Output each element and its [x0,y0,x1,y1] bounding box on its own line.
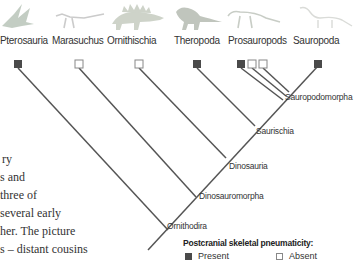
legend-item-present: Present [185,251,229,261]
body-text-line: s – distant cousins [0,240,88,258]
marker-pterosauria-present [14,60,22,68]
prosauropod-illustration-icon [228,12,280,29]
taxon-label-pterosauria: Pterosauria [0,35,48,46]
marasuchus-illustration-icon [56,14,104,28]
marker-ornithischia-absent [135,60,143,68]
legend-label-present: Present [198,251,229,261]
theropod-illustration-icon [176,8,222,31]
pterosaur-illustration-icon [2,4,34,28]
taxon-label-prosauropods: Prosauropods [228,35,287,46]
body-text-line: s and [0,168,25,186]
legend-title: Postcranial skeletal pneumaticity: [183,238,313,248]
pneumaticity-markers [14,60,322,68]
marker-prosauropod1-present [237,60,245,68]
taxon-label-marasuchus: Marasuchus [52,35,103,46]
ornithischia-illustration-icon [112,4,164,30]
body-text-line: her. The picture [0,222,75,240]
taxon-label-theropoda: Theropoda [174,35,220,46]
sauropod-illustration-icon [300,8,352,29]
filled-square-icon [185,253,192,260]
marker-marasuchus-absent [75,60,83,68]
taxon-label-sauropoda: Sauropoda [293,35,339,46]
marker-sauropoda-present [314,60,322,68]
body-text-line: ry [2,150,12,168]
marker-prosauropod2-absent [248,60,256,68]
taxon-label-ornithischia: Ornithischia [107,35,156,46]
body-text-line: three of [0,186,37,204]
empty-square-icon [276,253,283,260]
marker-theropoda-present [193,60,201,68]
node-label-dinosauromorpha: Dinosauromorpha [199,191,264,201]
legend-item-absent: Absent [276,251,317,261]
legend-label-absent: Absent [289,251,317,261]
node-label-saurischia: Saurischia [256,126,294,136]
node-label-sauropodomorpha: Sauropodomorpha [285,92,352,102]
node-label-ornithodira: Ornithodira [167,221,207,231]
body-text-line: several early [0,204,61,222]
marker-prosauropod3-absent [259,60,267,68]
node-label-dinosauria: Dinosauria [229,161,268,171]
